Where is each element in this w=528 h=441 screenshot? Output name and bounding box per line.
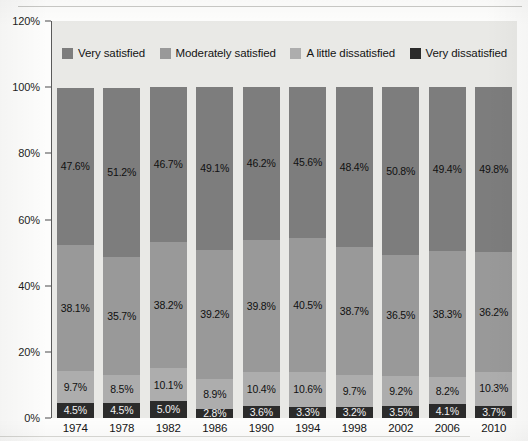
bar-segment[interactable]: 40.5% — [289, 238, 326, 372]
bar-value-label: 39.2% — [200, 309, 229, 320]
bar-segment[interactable]: 5.0% — [150, 401, 187, 418]
bar-segment[interactable]: 35.7% — [103, 257, 140, 375]
bar-segment[interactable]: 10.1% — [150, 368, 187, 401]
bar-segment[interactable]: 48.4% — [336, 87, 373, 247]
bar-segment[interactable]: 38.7% — [336, 247, 373, 375]
y-tick-label: 40% — [18, 280, 40, 292]
y-tick-label: 60% — [18, 214, 40, 226]
bar-segment[interactable]: 3.2% — [336, 407, 373, 418]
bar-value-label: 10.6% — [293, 384, 322, 395]
bar-segment[interactable]: 9.7% — [57, 371, 94, 403]
bar-group[interactable]: 4.5%9.7%38.1%47.6% — [57, 21, 94, 418]
page-rule-bottom — [0, 436, 470, 437]
bar-segment[interactable]: 36.5% — [382, 255, 419, 376]
y-tick-label: 120% — [12, 15, 40, 27]
bar-group[interactable]: 4.5%8.5%35.7%51.2% — [103, 21, 140, 418]
bar-group[interactable]: 3.5%9.2%36.5%50.8% — [382, 21, 419, 418]
bar-value-label: 3.7% — [482, 407, 505, 418]
bar-value-label: 2.8% — [203, 408, 226, 418]
bar-value-label: 45.6% — [293, 157, 322, 168]
x-tick-label: 1994 — [295, 422, 320, 434]
x-tick-label: 1998 — [342, 422, 367, 434]
bar-value-label: 38.7% — [340, 306, 369, 317]
bar-value-label: 38.1% — [61, 303, 90, 314]
bar-segment[interactable]: 38.2% — [150, 242, 187, 368]
bar-segment[interactable]: 3.7% — [475, 406, 512, 418]
bar-value-label: 49.1% — [200, 163, 229, 174]
bar-segment[interactable]: 51.2% — [103, 88, 140, 257]
bar-value-label: 9.7% — [343, 386, 366, 397]
bar-value-label: 47.6% — [61, 161, 90, 172]
y-tick-label: 80% — [18, 147, 40, 159]
bar-value-label: 39.8% — [247, 301, 276, 312]
bar-segment[interactable]: 39.8% — [243, 240, 280, 372]
bar-segment[interactable]: 45.6% — [289, 87, 326, 238]
x-tick-label: 1990 — [249, 422, 274, 434]
bar-segment[interactable]: 36.2% — [475, 252, 512, 372]
bar-segment[interactable]: 8.9% — [196, 379, 233, 408]
bar-segment[interactable]: 4.5% — [103, 403, 140, 418]
bar-value-label: 10.1% — [154, 380, 183, 391]
x-tick-label: 1982 — [156, 422, 181, 434]
bar-segment[interactable]: 49.8% — [475, 87, 512, 252]
bar-group[interactable]: 3.7%10.3%36.2%49.8% — [475, 21, 512, 418]
bars-layer: 4.5%9.7%38.1%47.6%4.5%8.5%35.7%51.2%5.0%… — [52, 21, 517, 418]
bar-segment[interactable]: 46.7% — [150, 87, 187, 241]
bar-value-label: 46.2% — [247, 158, 276, 169]
bar-segment[interactable]: 3.5% — [382, 406, 419, 418]
bar-segment[interactable]: 38.1% — [57, 245, 94, 371]
y-tick-label: 20% — [18, 346, 40, 358]
bar-group[interactable]: 5.0%10.1%38.2%46.7% — [150, 21, 187, 418]
bar-segment[interactable]: 10.4% — [243, 372, 280, 406]
bar-group[interactable]: 3.2%9.7%38.7%48.4% — [336, 21, 373, 418]
bar-segment[interactable]: 47.6% — [57, 88, 94, 245]
bar-segment[interactable]: 9.2% — [382, 376, 419, 406]
bar-value-label: 38.2% — [154, 300, 183, 311]
bar-segment[interactable]: 8.5% — [103, 375, 140, 403]
bar-segment[interactable]: 46.2% — [243, 87, 280, 240]
bar-segment[interactable]: 10.6% — [289, 372, 326, 407]
bar-segment[interactable]: 38.3% — [429, 251, 466, 378]
bar-segment[interactable]: 4.5% — [57, 403, 94, 418]
bar-group[interactable]: 3.6%10.4%39.8%46.2% — [243, 21, 280, 418]
bar-segment[interactable]: 39.2% — [196, 250, 233, 380]
bar-value-label: 35.7% — [107, 311, 136, 322]
bar-segment[interactable]: 49.1% — [196, 87, 233, 249]
y-tick-label: 0% — [24, 412, 40, 424]
y-tick-label: 100% — [12, 81, 40, 93]
x-axis: 1974197819821986199019941998200220062010 — [52, 420, 517, 440]
bar-value-label: 5.0% — [157, 404, 180, 415]
bar-segment[interactable]: 10.3% — [475, 372, 512, 406]
bar-group[interactable]: 3.3%10.6%40.5%45.6% — [289, 21, 326, 418]
x-tick-label: 2006 — [435, 422, 460, 434]
bar-segment[interactable]: 49.4% — [429, 87, 466, 250]
bar-value-label: 10.4% — [247, 384, 276, 395]
x-tick-label: 2002 — [388, 422, 413, 434]
bar-value-label: 40.5% — [293, 300, 322, 311]
bar-segment[interactable]: 3.6% — [243, 406, 280, 418]
bar-value-label: 9.7% — [64, 382, 87, 393]
x-tick-label: 1986 — [202, 422, 227, 434]
bar-segment[interactable]: 8.2% — [429, 377, 466, 404]
bar-group[interactable]: 2.8%8.9%39.2%49.1% — [196, 21, 233, 418]
bar-value-label: 8.2% — [436, 386, 459, 397]
bar-value-label: 3.2% — [343, 407, 366, 418]
chart-figure: 0%20%40%60%80%100%120% Very satisfiedMod… — [0, 0, 528, 441]
x-tick-label: 1978 — [109, 422, 134, 434]
bar-value-label: 4.5% — [110, 405, 133, 416]
bar-segment[interactable]: 2.8% — [196, 409, 233, 418]
bar-segment[interactable]: 4.1% — [429, 404, 466, 418]
x-tick-label: 1974 — [63, 422, 88, 434]
bar-value-label: 9.2% — [389, 386, 412, 397]
page-rule-top — [18, 6, 522, 7]
bar-segment[interactable]: 3.3% — [289, 407, 326, 418]
bar-segment[interactable]: 50.8% — [382, 87, 419, 255]
bar-group[interactable]: 4.1%8.2%38.3%49.4% — [429, 21, 466, 418]
bar-value-label: 48.4% — [340, 162, 369, 173]
bar-value-label: 49.4% — [433, 164, 462, 175]
bar-segment[interactable]: 9.7% — [336, 375, 373, 407]
bar-value-label: 36.2% — [479, 307, 508, 318]
bar-value-label: 8.5% — [110, 384, 133, 395]
y-axis: 0%20%40%60%80%100%120% — [0, 14, 44, 424]
bar-value-label: 38.3% — [433, 309, 462, 320]
